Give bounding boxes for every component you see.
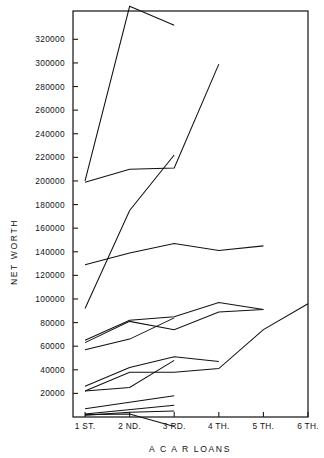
series-line-borrower-6 [85,310,263,343]
y-tick-label: 180000 [35,200,65,210]
data-series-group [85,6,308,426]
x-axis-title-group: A C A R LOANS [149,444,231,454]
series-line-borrower-8 [85,357,219,387]
y-tick-label: 280000 [35,82,65,92]
y-tick-label: 20000 [40,388,65,398]
series-line-borrower-4 [85,244,263,265]
x-tick-label: 5 TH. [253,421,275,431]
y-tick-label: 220000 [35,152,65,162]
x-axis-title: A C A R LOANS [149,444,231,454]
net-worth-line-chart: 2000040000600008000010000012000014000016… [0,0,324,458]
y-tick-label: 300000 [35,58,65,68]
plot-frame [73,11,308,417]
x-tick-label: 2 ND. [118,421,141,431]
x-axis-tick-labels: 1 ST.2 ND.3 RD.4 TH.5 TH.6 TH. [75,421,319,431]
y-axis-title-group: NET WORTH [9,219,19,285]
series-line-borrower-9 [85,304,308,391]
series-line-borrower-10 [85,360,174,391]
y-tick-label: 160000 [35,223,65,233]
y-tick-label: 260000 [35,105,65,115]
x-tick-label: 6 TH. [297,421,319,431]
y-tick-label: 200000 [35,176,65,186]
y-tick-label: 60000 [40,341,65,351]
y-axis-tick-marks [73,39,78,393]
y-tick-label: 100000 [35,294,65,304]
y-tick-label: 80000 [40,318,65,328]
x-tick-label: 4 TH. [208,421,230,431]
chart-canvas: 2000040000600008000010000012000014000016… [0,0,324,458]
y-tick-label: 240000 [35,129,65,139]
y-axis-tick-labels: 2000040000600008000010000012000014000016… [35,34,65,398]
y-tick-label: 140000 [35,247,65,257]
x-tick-label: 1 ST. [75,421,95,431]
series-line-borrower-5 [85,303,263,341]
y-tick-label: 120000 [35,270,65,280]
y-tick-label: 320000 [35,34,65,44]
y-tick-label: 40000 [40,365,65,375]
series-line-borrower-2 [85,64,219,182]
y-axis-title: NET WORTH [9,219,19,285]
series-line-borrower-1 [85,6,174,181]
